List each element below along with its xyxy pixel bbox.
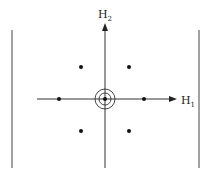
weight-point (79, 129, 83, 133)
h2-arrowhead-icon (102, 23, 108, 31)
h1-arrowhead-icon (169, 96, 177, 102)
h1-label: H1 (181, 94, 195, 109)
weight-point (79, 65, 83, 69)
weight-point (127, 65, 131, 69)
weight-point (127, 129, 131, 133)
h2-label: H2 (98, 8, 112, 23)
weight-point (142, 97, 146, 101)
weight-point (57, 97, 61, 101)
center-point (103, 97, 107, 101)
weight-diagram: H1 H2 (0, 0, 207, 178)
